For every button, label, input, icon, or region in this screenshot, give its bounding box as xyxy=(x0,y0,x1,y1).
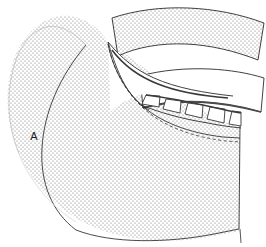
figure-root: A xyxy=(0,0,266,247)
upper-stippled-band xyxy=(112,8,264,60)
technical-diagram-svg: A xyxy=(0,0,266,247)
label-a: A xyxy=(30,130,38,142)
